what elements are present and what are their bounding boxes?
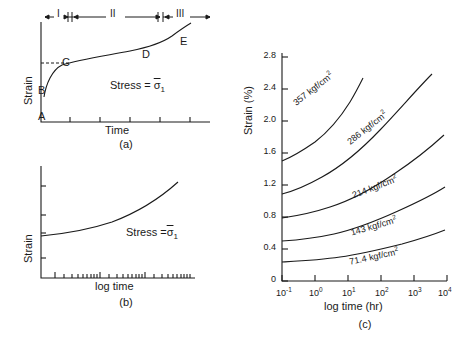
panel-c-plot [232,0,464,343]
panel-b-plot [0,158,232,343]
panel-b: Strain Stress =σ1 [0,158,232,343]
panel-c-yticks [282,57,288,281]
panel-c-xticks [282,275,447,281]
curve-71 [282,230,445,262]
panel-b-yticks [41,186,46,258]
stage-markers [45,12,210,22]
panel-b-creep-curve [41,182,178,236]
panel-b-axes [41,166,195,278]
panel-b-xlabel: log time [95,280,134,292]
panel-c-axes [282,53,447,281]
panel-b-xticks [55,272,190,278]
panel-c: Strain (%) 0 0.4 0.8 1.2 1.6 2.0 2.4 2.8… [232,0,464,343]
curve-357 [282,78,363,161]
panel-a-xlabel: Time [105,124,129,136]
panel-c-caption: (c) [335,318,395,330]
panel-a-xticks [70,117,190,122]
panel-a-caption: (a) [96,138,156,150]
panel-b-caption: (b) [96,296,156,308]
panel-a-axes [41,22,210,122]
panel-c-xlabel: log time (hr) [324,300,383,312]
curve-286 [282,74,432,194]
panel-a: Strain I II III A B C D E Stress = σ1 [0,0,232,150]
panel-a-creep-curve [44,23,191,97]
